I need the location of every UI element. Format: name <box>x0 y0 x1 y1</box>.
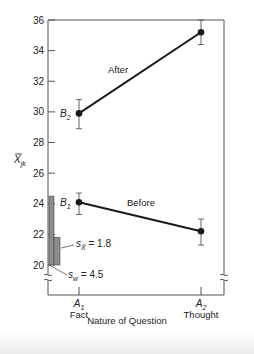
y-tick-label: 36 <box>33 15 45 26</box>
y-tick-label: 32 <box>33 76 45 87</box>
series-level-label: B2 <box>60 108 71 121</box>
sw-annotation: sw = 4.5 <box>68 269 104 282</box>
x-axis-title: Nature of Question <box>87 315 167 326</box>
plot-frame <box>44 20 228 295</box>
line-chart: 202224262830323436 Xjk sX̄ = 1.8sw = 4.5… <box>0 0 254 354</box>
x-category-name: Fact <box>70 309 89 320</box>
y-tick-label: 24 <box>33 198 45 209</box>
series-name-label: After <box>108 64 128 75</box>
sx-bar <box>54 237 60 265</box>
y-tick-label: 22 <box>33 229 45 240</box>
series-line <box>79 32 201 113</box>
y-tick-label: 20 <box>33 260 45 271</box>
y-tick-label: 26 <box>33 168 45 179</box>
data-point <box>76 199 83 206</box>
sw-bar <box>49 196 54 265</box>
x-category-name: Thought <box>184 309 219 320</box>
sx-leader <box>61 245 74 248</box>
y-axis-label: Xjk <box>13 154 26 168</box>
series-after: B2After <box>60 20 204 129</box>
bottom-fade <box>0 330 254 354</box>
series-name-label: Before <box>127 197 155 208</box>
data-point <box>76 110 83 117</box>
sw-leader <box>49 265 67 275</box>
series-before: B1Before <box>60 193 204 245</box>
series-level-label: B1 <box>60 197 71 210</box>
data-point <box>198 29 205 36</box>
axis-box <box>48 20 224 295</box>
y-tick-label: 28 <box>33 137 45 148</box>
y-tick-label: 30 <box>33 106 45 117</box>
data-series: B2AfterB1Before <box>60 20 204 245</box>
sd-annotations: sX̄ = 1.8sw = 4.5 <box>49 196 111 282</box>
sx-annotation: sX̄ = 1.8 <box>76 238 111 251</box>
data-point <box>198 228 205 235</box>
y-tick-label: 34 <box>33 45 45 56</box>
y-axis-label-text: Xjk <box>13 154 26 168</box>
